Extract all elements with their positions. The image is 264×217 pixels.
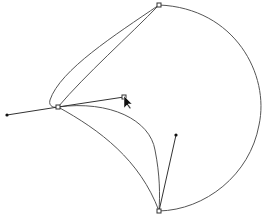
left-handle-out-point[interactable] xyxy=(5,113,8,116)
bezier-segment-left-bottom-outer[interactable] xyxy=(58,107,159,211)
bezier-segment-right-arc[interactable] xyxy=(159,5,261,211)
bezier-segment-top-left-outer[interactable] xyxy=(50,5,159,107)
left-anchor[interactable] xyxy=(56,105,60,109)
arrow-cursor-icon xyxy=(124,96,132,109)
bottom-anchor[interactable] xyxy=(157,209,161,213)
bezier-segment-top-left-inner[interactable] xyxy=(58,5,159,107)
bezier-pen-canvas[interactable] xyxy=(0,0,264,217)
path-drawing xyxy=(0,0,264,217)
bezier-segment-left-bottom-inner[interactable] xyxy=(58,106,160,211)
bottom-handle-line xyxy=(159,135,176,211)
bottom-handle-point[interactable] xyxy=(174,133,177,136)
top-anchor[interactable] xyxy=(157,3,161,7)
left-handle-in-line xyxy=(58,97,124,107)
left-handle-out-line xyxy=(7,107,58,115)
